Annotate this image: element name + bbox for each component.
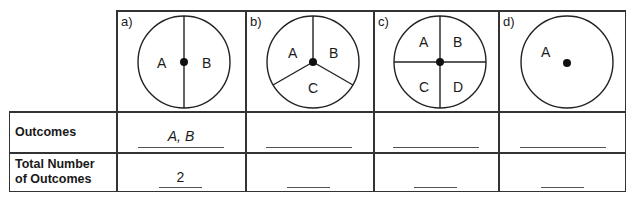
total-blank-d[interactable] — [541, 187, 584, 188]
outcomes-blank-a — [138, 147, 224, 148]
section-label: D — [453, 79, 463, 95]
column-label-a: a) — [121, 14, 133, 29]
outcomes-answer-a[interactable]: A, B — [138, 128, 224, 144]
row-label-total-line2: of Outcomes — [15, 172, 91, 187]
spinner-diagrams — [0, 0, 632, 202]
spinner-pivot-icon — [563, 59, 571, 67]
total-answer-a[interactable]: 2 — [159, 169, 202, 185]
column-label-d: d) — [503, 14, 515, 29]
section-label: C — [419, 79, 429, 95]
spinner-pivot-icon — [436, 58, 444, 66]
outcomes-blank-c[interactable] — [393, 147, 479, 148]
column-label-b: b) — [250, 14, 262, 29]
section-label: A — [419, 34, 428, 50]
row-label-total-line1: Total Number — [15, 157, 95, 172]
section-label: A — [157, 55, 166, 71]
section-label: A — [288, 45, 297, 61]
row-label-outcomes: Outcomes — [15, 125, 76, 140]
outcomes-blank-d[interactable] — [520, 147, 606, 148]
section-label: B — [202, 55, 211, 71]
column-label-c: c) — [378, 14, 389, 29]
section-label: C — [308, 80, 318, 96]
outcomes-blank-b[interactable] — [266, 147, 352, 148]
spinner-pivot-icon — [309, 58, 317, 66]
total-blank-c[interactable] — [414, 187, 457, 188]
total-blank-a — [159, 187, 202, 188]
spinner-pivot-icon — [180, 58, 188, 66]
section-label: B — [453, 34, 462, 50]
section-label: B — [329, 45, 338, 61]
section-label: A — [541, 44, 550, 60]
total-blank-b[interactable] — [287, 187, 330, 188]
